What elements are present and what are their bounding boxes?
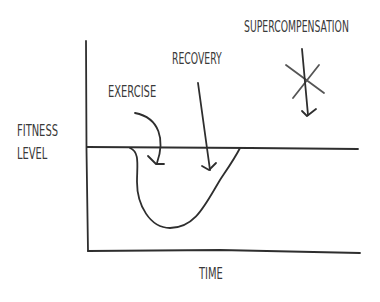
x-axis-label: TIME <box>199 266 223 282</box>
recovery-arrow <box>198 83 210 170</box>
exercise-arrowhead <box>148 156 164 164</box>
fitness-curve <box>130 148 240 228</box>
baseline-line <box>87 147 358 149</box>
recovery-label: RECOVERY <box>172 52 222 67</box>
exercise-label: EXERCISE <box>108 84 156 100</box>
supercompensation-arrow <box>302 49 308 115</box>
supercompensation-diagram <box>0 0 380 302</box>
x-axis-line <box>88 250 360 253</box>
supercompensation-arrowhead <box>302 109 316 116</box>
supercompensation-label: SUPERCOMPENSATION <box>244 20 349 35</box>
y-axis-line <box>86 41 88 251</box>
y-axis-label-line2: LEVEL <box>17 146 47 162</box>
y-axis-label-line1: FITNESS <box>17 123 58 139</box>
